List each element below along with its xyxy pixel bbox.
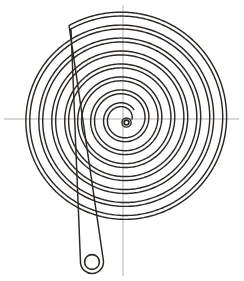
tail-group xyxy=(69,12,227,273)
terminal-eyelet-hole xyxy=(85,255,100,270)
inner-eyelet-hole xyxy=(124,120,129,125)
spiral-band-group xyxy=(26,25,214,219)
spiral-inner-edge xyxy=(30,29,210,215)
spiral-figure-container: Spiral spring (Archimedean flat coil) te… xyxy=(0,0,244,281)
axes-group xyxy=(4,5,239,276)
outer-tail-outline xyxy=(69,12,227,273)
spiral-drawing: Spiral spring (Archimedean flat coil) te… xyxy=(0,0,244,281)
